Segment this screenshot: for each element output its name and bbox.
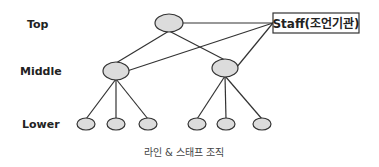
node-low-6 — [253, 118, 271, 130]
diagram-svg: Staff(조언기관) Top Middle Lower 라인 & 스태프 조직 — [0, 0, 379, 167]
level-label-top: Top — [27, 18, 49, 31]
line-edge-mid-right-low-6 — [225, 76, 262, 119]
line-edge-mid-right-low-5 — [225, 76, 226, 119]
diagram-caption: 라인 & 스태프 조직 — [144, 147, 224, 158]
node-low-1 — [77, 118, 95, 130]
line-edge-top-mid-left — [116, 31, 169, 63]
level-label-middle: Middle — [20, 65, 62, 78]
node-low-4 — [188, 118, 206, 130]
node-mid-left — [103, 62, 129, 80]
staff-label: Staff(조언기관) — [272, 16, 359, 31]
node-low-5 — [217, 118, 235, 130]
level-label-lower: Lower — [22, 118, 60, 131]
nodes — [77, 14, 271, 130]
node-low-2 — [107, 118, 125, 130]
line-edge-mid-left-low-1 — [86, 79, 116, 119]
line-edge-top-mid-right — [169, 31, 225, 60]
line-staff-org-diagram: Staff(조언기관) Top Middle Lower 라인 & 스태프 조직 — [0, 0, 379, 167]
node-top — [155, 14, 183, 32]
staff-edge-mid-left — [127, 23, 273, 71]
line-edge-mid-right-low-4 — [197, 76, 225, 119]
staff-edge-mid-right — [236, 23, 273, 68]
node-low-3 — [139, 118, 157, 130]
line-edge-mid-left-low-3 — [116, 79, 148, 119]
node-mid-right — [212, 59, 238, 77]
